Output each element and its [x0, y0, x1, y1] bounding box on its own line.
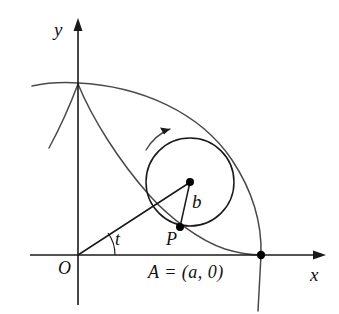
angle-label-t: t — [115, 230, 120, 248]
point-label-P: P — [166, 230, 177, 248]
x-axis-arrowhead — [313, 251, 326, 260]
math-figure: y x O t b P A = (a, 0) — [0, 0, 339, 314]
point-label-A: A = (a, 0) — [148, 263, 224, 281]
radius-label-b: b — [192, 192, 202, 211]
point-circle-center — [186, 178, 194, 186]
x-axis-label: x — [310, 265, 318, 284]
inner-branch-left-path — [49, 84, 78, 148]
point-A — [257, 251, 265, 259]
origin-label: O — [58, 259, 71, 277]
y-axis-label: y — [54, 20, 62, 39]
point-P — [176, 223, 184, 231]
y-axis-arrowhead — [74, 18, 83, 31]
radius-segment-b — [180, 182, 190, 227]
angle-arc-t — [108, 233, 115, 255]
